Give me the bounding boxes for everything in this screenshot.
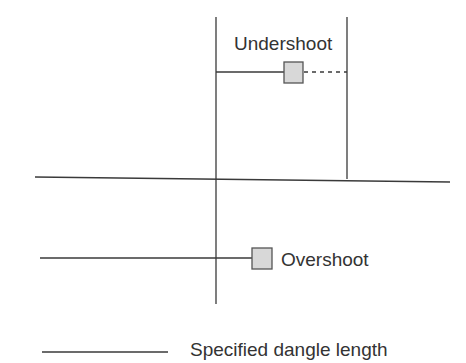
legend-label: Specified dangle length bbox=[190, 340, 388, 359]
overshoot-label: Overshoot bbox=[281, 250, 369, 269]
undershoot-node-box bbox=[284, 62, 303, 83]
dangle-diagram bbox=[0, 0, 466, 363]
undershoot-label: Undershoot bbox=[234, 34, 332, 53]
overshoot-node-box bbox=[252, 248, 272, 269]
main-horizontal-line bbox=[35, 177, 450, 182]
